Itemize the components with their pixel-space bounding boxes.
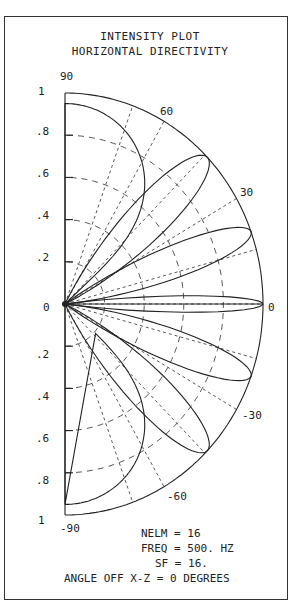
grid-spoke bbox=[65, 304, 256, 359]
grid-spoke bbox=[65, 304, 237, 410]
grid-spoke bbox=[65, 155, 205, 304]
angle-label-minus90: -90 bbox=[60, 522, 80, 535]
info-nelm: NELM = 16 bbox=[141, 527, 201, 540]
r-label-02-bottom: .2 bbox=[36, 348, 49, 361]
r-label-1-bottom: 1 bbox=[38, 514, 45, 527]
angle-label-minus30: -30 bbox=[242, 409, 262, 422]
chart-title: INTENSITY PLOT bbox=[100, 30, 200, 43]
angle-label-30: 30 bbox=[240, 186, 253, 199]
chart-subtitle: HORIZONTAL DIRECTIVITY bbox=[72, 45, 229, 58]
r-label-06-bottom: .6 bbox=[36, 432, 49, 445]
r-label-0: 0 bbox=[43, 301, 50, 314]
grid-spoke bbox=[65, 106, 133, 304]
angle-label-0: 0 bbox=[268, 301, 275, 314]
origin-dot bbox=[62, 301, 68, 307]
lobe bbox=[65, 304, 145, 504]
lobe bbox=[65, 104, 145, 304]
r-label-1-top: 1 bbox=[38, 85, 45, 98]
grid bbox=[65, 93, 263, 515]
info-freq: FREQ = 500. HZ bbox=[141, 542, 234, 555]
r-label-08-top: .8 bbox=[36, 125, 49, 138]
angle-label-minus60: -60 bbox=[167, 490, 187, 503]
polar-plot: INTENSITY PLOT HORIZONTAL DIRECTIVITY 90… bbox=[0, 0, 299, 616]
grid-spoke bbox=[65, 304, 133, 502]
r-label-06-top: .6 bbox=[36, 167, 49, 180]
info-angle-off: ANGLE OFF X-Z = 0 DEGREES bbox=[64, 572, 230, 585]
grid-spoke bbox=[65, 199, 237, 305]
r-label-02-top: .2 bbox=[36, 251, 49, 264]
info-sf: SF = 16. bbox=[155, 557, 208, 570]
r-label-04-bottom: .4 bbox=[36, 390, 50, 403]
r-label-08-bottom: .8 bbox=[36, 474, 49, 487]
r-label-04-top: .4 bbox=[36, 209, 50, 222]
lobe bbox=[65, 304, 209, 453]
lobe bbox=[65, 155, 209, 304]
angle-label-60: 60 bbox=[160, 105, 173, 118]
angle-label-90: 90 bbox=[60, 70, 73, 83]
grid-spoke bbox=[65, 304, 205, 453]
